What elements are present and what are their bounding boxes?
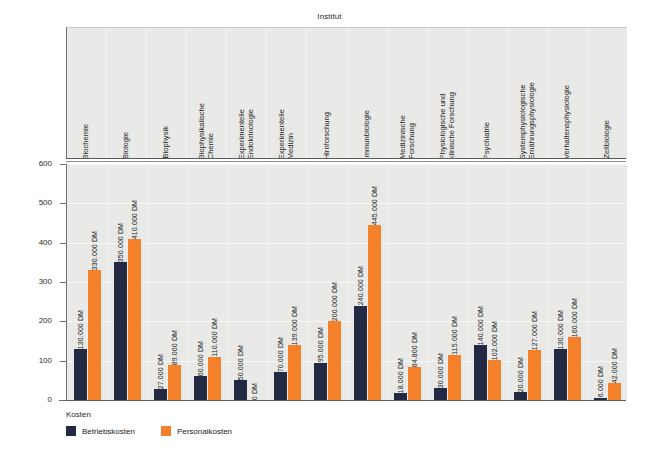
y-axis-title: Anzahl in Tsd. <box>0 250 48 297</box>
legend-item-betriebskosten[interactable]: Betriebskosten <box>66 426 135 436</box>
y-tick-mark <box>60 282 66 283</box>
bar-chart: Institut BiochemieBiologieBiophysikBioph… <box>0 0 659 463</box>
y-tick-label: 0 <box>26 395 52 404</box>
y-tick-label: 300 <box>26 277 52 286</box>
y-tick-mark <box>60 203 66 204</box>
y-tick-mark <box>60 164 66 165</box>
y-tick-mark <box>60 361 66 362</box>
legend-label: Personalkosten <box>177 427 232 436</box>
y-tick-mark <box>60 321 66 322</box>
y-axis-ticks: Anzahl in Tsd. 0100200300400500600 <box>0 0 659 463</box>
legend: Kosten BetriebskostenPersonalkosten <box>66 410 232 436</box>
y-tick-label: 600 <box>26 159 52 168</box>
y-tick-label: 100 <box>26 356 52 365</box>
legend-swatch <box>66 426 76 436</box>
legend-title: Kosten <box>66 410 232 419</box>
legend-items: BetriebskostenPersonalkosten <box>66 426 232 436</box>
legend-swatch <box>161 426 171 436</box>
y-tick-mark <box>60 400 66 401</box>
y-tick-label: 500 <box>26 198 52 207</box>
y-tick-label: 400 <box>26 238 52 247</box>
legend-label: Betriebskosten <box>82 427 135 436</box>
legend-item-personalkosten[interactable]: Personalkosten <box>161 426 232 436</box>
y-tick-label: 200 <box>26 316 52 325</box>
y-tick-mark <box>60 243 66 244</box>
